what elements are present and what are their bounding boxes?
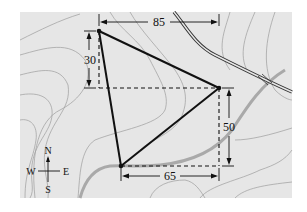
dimension-right-label: 50 (223, 120, 235, 134)
dimension-bottom-label: 65 (164, 169, 176, 183)
compass-south: S (45, 184, 51, 195)
vertex-b (217, 86, 222, 91)
vertex-c (119, 164, 124, 169)
compass-east: E (63, 166, 69, 177)
compass-north: N (44, 145, 51, 156)
dimension-left-label: 30 (84, 53, 96, 67)
compass-west: W (26, 166, 36, 177)
dimension-top-label: 85 (153, 15, 165, 29)
map-background (20, 12, 292, 198)
vertex-a (97, 29, 102, 34)
diagram-canvas: 85 30 50 65 N S W E (0, 0, 307, 212)
